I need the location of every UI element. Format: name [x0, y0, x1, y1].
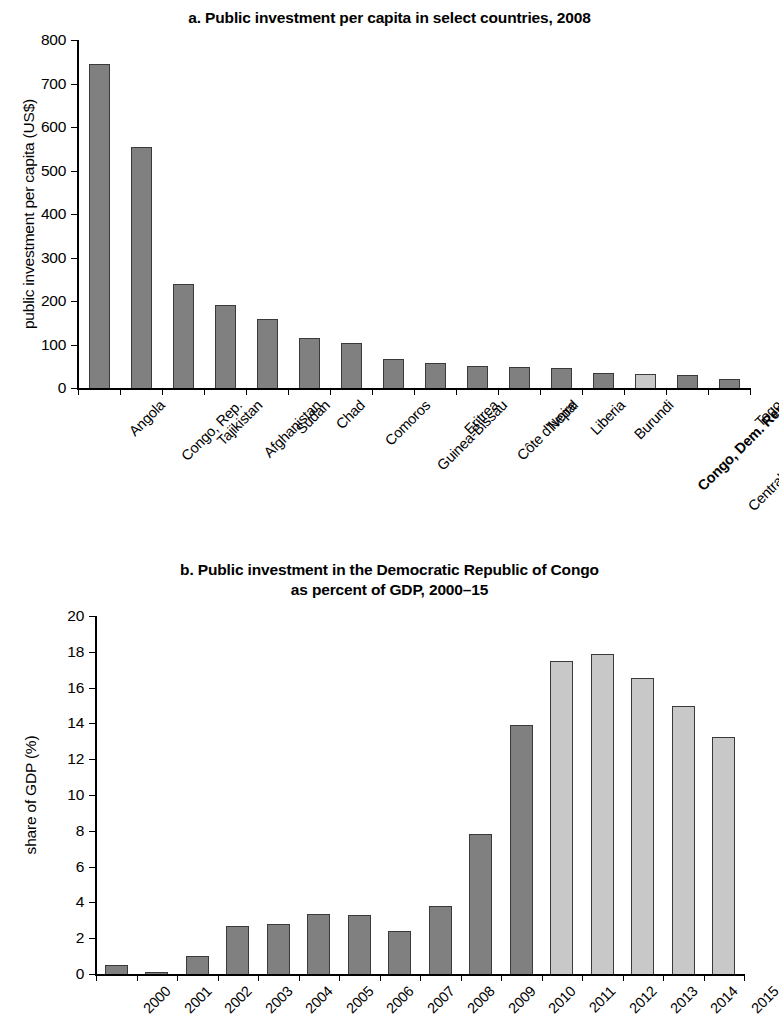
y-tick-label: 800 [0, 31, 66, 49]
panel-a-title: a. Public investment per capita in selec… [0, 8, 779, 28]
x-axis-label: 2010 [545, 983, 578, 1016]
y-tick-label: 2 [0, 929, 84, 947]
bar [131, 147, 152, 388]
x-tick-mark [750, 389, 751, 395]
bar [145, 972, 168, 974]
y-tick-label: 20 [0, 607, 84, 625]
x-axis-label: 2011 [586, 983, 619, 1016]
y-tick-label: 600 [0, 118, 66, 136]
x-axis-label: 2014 [707, 983, 740, 1016]
y-tick-label: 0 [0, 965, 84, 983]
x-tick-mark [162, 389, 163, 395]
x-axis-label: 2001 [181, 983, 214, 1016]
x-axis-label: 2013 [667, 983, 700, 1016]
x-tick-mark [137, 975, 138, 981]
y-tick-label: 400 [0, 205, 66, 223]
x-tick-mark [666, 389, 667, 395]
bar [425, 363, 446, 388]
x-axis-label: 2005 [343, 983, 376, 1016]
x-axis-label: 2000 [140, 983, 173, 1016]
bar [429, 906, 452, 974]
bar [186, 956, 209, 974]
x-axis-label: 2004 [302, 983, 335, 1016]
bar [467, 366, 488, 388]
x-tick-mark [204, 389, 205, 395]
x-tick-mark [498, 389, 499, 395]
x-tick-mark [420, 975, 421, 981]
panel-a-plot-area [78, 40, 750, 388]
x-axis-label: 2007 [424, 983, 457, 1016]
x-tick-mark [582, 975, 583, 981]
x-tick-mark [624, 389, 625, 395]
x-tick-mark [246, 389, 247, 395]
bar [672, 706, 695, 975]
bar [267, 924, 290, 974]
x-tick-mark [288, 389, 289, 395]
x-tick-mark [78, 389, 79, 395]
x-tick-mark [708, 389, 709, 395]
x-tick-mark [120, 389, 121, 395]
x-tick-mark [461, 975, 462, 981]
panel-b-title-line-1: b. Public investment in the Democratic R… [0, 560, 779, 580]
bar [388, 931, 411, 974]
bar [719, 379, 740, 388]
x-tick-mark [414, 389, 415, 395]
x-tick-mark [540, 389, 541, 395]
x-tick-mark [663, 975, 664, 981]
bar [509, 367, 530, 388]
bar [677, 375, 698, 388]
x-axis-label: Liberia [587, 397, 628, 438]
x-tick-mark [339, 975, 340, 981]
x-tick-mark [623, 975, 624, 981]
x-tick-mark [542, 975, 543, 981]
panel-a-chart: public investment per capita (US$) 01002… [0, 30, 779, 520]
bar [299, 338, 320, 388]
x-axis-label: 2012 [626, 983, 659, 1016]
x-tick-mark [372, 389, 373, 395]
x-tick-mark [704, 975, 705, 981]
y-tick-label: 100 [0, 336, 66, 354]
bar [341, 343, 362, 388]
x-axis-label: 2009 [505, 983, 538, 1016]
panel-b-title-line-2: as percent of GDP, 2000–15 [0, 580, 779, 600]
x-tick-mark [456, 389, 457, 395]
x-axis-label: 2015 [748, 983, 779, 1016]
y-tick-label: 300 [0, 249, 66, 267]
bar [469, 834, 492, 975]
x-tick-mark [96, 975, 97, 981]
bar [348, 915, 371, 974]
bar [173, 284, 194, 388]
bar [551, 368, 572, 388]
y-tick-label: 18 [0, 643, 84, 661]
panel-b-title: b. Public investment in the Democratic R… [0, 560, 779, 600]
y-tick-label: 0 [0, 379, 66, 397]
y-tick-label: 16 [0, 679, 84, 697]
y-tick-label: 700 [0, 75, 66, 93]
x-axis-label: Nepal [544, 397, 581, 434]
x-axis-label: Chad [333, 397, 368, 432]
y-tick-label: 500 [0, 162, 66, 180]
figure-root: a. Public investment per capita in selec… [0, 0, 779, 1034]
x-tick-mark [501, 975, 502, 981]
x-tick-mark [299, 975, 300, 981]
x-axis-label: 2002 [221, 983, 254, 1016]
x-tick-mark [380, 975, 381, 981]
bar [631, 678, 654, 974]
panel-b-plot-area [96, 616, 744, 974]
bar [593, 373, 614, 388]
x-tick-mark [218, 975, 219, 981]
x-tick-mark [177, 975, 178, 981]
y-tick-label: 14 [0, 714, 84, 732]
bar [257, 319, 278, 388]
x-axis-label: Burundi [631, 397, 676, 442]
x-tick-mark [582, 389, 583, 395]
bar [550, 661, 573, 974]
x-tick-mark [744, 975, 745, 981]
y-tick-label: 6 [0, 858, 84, 876]
bar [635, 374, 656, 388]
bar [215, 305, 236, 388]
y-tick-label: 12 [0, 750, 84, 768]
y-tick-label: 4 [0, 893, 84, 911]
x-axis-label: Comoros [382, 397, 434, 449]
x-tick-mark [258, 975, 259, 981]
